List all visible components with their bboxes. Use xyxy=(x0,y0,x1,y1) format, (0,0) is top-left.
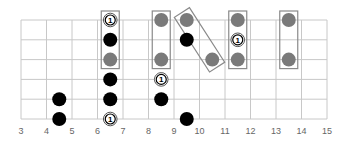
shape-note-dot xyxy=(180,13,194,27)
fretboard-diagram: 3456789101112131415 1111 xyxy=(0,0,347,142)
root-note-marker: 1 xyxy=(231,33,245,47)
fret-label: 9 xyxy=(171,126,176,136)
fret-labels: 3456789101112131415 xyxy=(18,126,332,136)
scale-note-dot xyxy=(180,33,194,47)
shape-note-dot xyxy=(154,53,168,67)
root-note-marker: 1 xyxy=(103,13,117,27)
shape-note-dot xyxy=(231,53,245,67)
scale-note-dot xyxy=(154,92,168,106)
shape-note-dot xyxy=(282,53,296,67)
shape-note-dot xyxy=(282,13,296,27)
fret-label: 14 xyxy=(296,126,306,136)
fretboard-grid xyxy=(21,20,327,119)
fret-label: 15 xyxy=(322,126,332,136)
fret-label: 5 xyxy=(69,126,74,136)
root-label: 1 xyxy=(108,115,113,124)
fret-label: 13 xyxy=(271,126,281,136)
root-label: 1 xyxy=(159,75,164,84)
root-note-marker: 1 xyxy=(154,73,168,87)
scale-note-dot xyxy=(103,33,117,47)
root-label: 1 xyxy=(108,16,113,25)
fret-label: 6 xyxy=(95,126,100,136)
fret-label: 8 xyxy=(146,126,151,136)
shape-note-dot xyxy=(103,53,117,67)
shape-note-dot xyxy=(154,13,168,27)
fret-label: 4 xyxy=(44,126,49,136)
scale-note-dot xyxy=(103,72,117,86)
shape-note-dot xyxy=(231,13,245,27)
fret-label: 12 xyxy=(245,126,255,136)
fret-label: 10 xyxy=(194,126,204,136)
scale-note-dot xyxy=(180,112,194,126)
fret-label: 3 xyxy=(18,126,23,136)
fret-label: 7 xyxy=(120,126,125,136)
root-note-marker: 1 xyxy=(103,112,117,126)
shape-note-dot xyxy=(205,53,219,67)
scale-note-dot xyxy=(103,92,117,106)
scale-note-dot xyxy=(52,112,66,126)
scale-note-dot xyxy=(52,92,66,106)
root-label: 1 xyxy=(236,36,241,45)
fret-label: 11 xyxy=(220,126,229,136)
